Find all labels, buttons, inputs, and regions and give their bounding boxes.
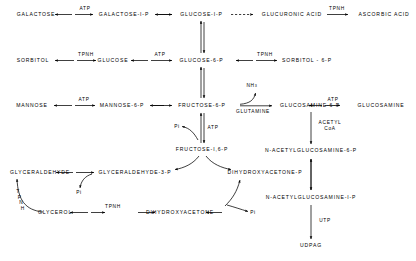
- arrow-fructose16p-to-glyceraldehyde3p: [175, 156, 199, 170]
- node-mannose-6-p: MANNOSE-6-P: [100, 103, 145, 108]
- node-glyceraldehyde: GLYCERALDEHYDE: [10, 170, 70, 175]
- arrow-nh3-cofactor: [240, 93, 256, 104]
- edge-label-atp-fructose: ATP: [207, 125, 218, 130]
- edge-label-pi-glyceraldehyde: Pi: [76, 190, 82, 195]
- arrow-dihydroxyacetone-to-dihydroxyacetonep: [225, 180, 240, 206]
- ammonia-cofactor-label: NH3: [246, 83, 257, 90]
- acetyl-label-line1: ACETYL: [319, 120, 342, 125]
- tpnh-vertical-text: TPNH: [14, 189, 22, 211]
- arrow-pi-release-glyceraldehyde: [80, 174, 92, 188]
- node-glucose: GLUCOSE: [98, 58, 129, 63]
- edge-label-pi-fructose: Pi: [174, 124, 180, 129]
- edge-label-pi-dihydroxyacetone: Pi: [250, 210, 256, 215]
- node-glucosamine-6-p: GLUCOSAMINE-6-P: [280, 103, 340, 108]
- node-n-acetylglucosamine-6-p: N-ACETYLGLUCOSAMINE-6-P: [265, 148, 357, 153]
- edge-label-atp-glucose: ATP: [154, 52, 165, 57]
- node-sorbitol: SORBITOL: [17, 58, 49, 63]
- edge-label-tpnh-ascorbic: TPNH: [329, 6, 345, 11]
- edge-label-atp-galactose: ATP: [79, 6, 90, 11]
- acetyl-label-line2: CoA: [324, 126, 335, 131]
- node-glucosamine: GLUCOSAMINE: [358, 103, 405, 108]
- node-sorbitol-6-p: SORBITOL - 6-P: [282, 58, 332, 63]
- ammonia-subscript: 3: [255, 84, 258, 88]
- node-n-acetylglucosamine-1-p: N-ACETYLGLUCOSAMINE-I-P: [266, 195, 357, 200]
- edge-label-tpnh-sorbitol: TPNH: [78, 52, 94, 57]
- edge-label-tpnh-sorbitol-6p: TPNH: [257, 52, 273, 57]
- node-glucose-1-p: GLUCOSE-I-P: [180, 12, 222, 17]
- arrow-fructose16p-to-dihydroxyacetonep: [206, 156, 231, 170]
- node-glucose-6-p: GLUCOSE-6-P: [180, 58, 224, 63]
- edge-label-tpnh-glycerol: TPNH: [105, 204, 121, 209]
- arrow-pi-release-fructose: [182, 127, 198, 141]
- node-ascorbic-acid: ASCORBIC ACID: [359, 12, 410, 17]
- edge-label-utp: UTP: [319, 218, 331, 223]
- node-mannose: MANNOSE: [16, 103, 48, 108]
- node-fructose-1-6-p: FRUCTOSE-I,6-P: [176, 147, 228, 152]
- node-glucuronic-acid: GLUCURONIC ACID: [262, 12, 322, 17]
- node-galactose-1-p: GALACTOSE-I-P: [99, 12, 149, 17]
- node-udpag: UDPAG: [300, 243, 322, 248]
- node-dihydroxyacetone-p: DIHYDROXYACETONE-P: [228, 170, 303, 175]
- edge-label-atp-mannose: ATP: [78, 97, 89, 102]
- edge-label-glutamine: GLUTAMINE: [236, 109, 270, 114]
- node-fructose-6-p: FRUCTOSE-6-P: [178, 103, 226, 108]
- node-galactose: GALACTOSE: [17, 12, 56, 17]
- arrow-pi-release-dihydroxyacetone: [227, 205, 248, 212]
- edge-label-atp-glucosamine: ATP: [327, 97, 338, 102]
- pathway-diagram: GALACTOSE GALACTOSE-I-P GLUCOSE-I-P GLUC…: [0, 0, 416, 261]
- edge-label-tpnh-vertical: TPNH: [14, 189, 22, 211]
- node-glycerol: GLYCEROL: [38, 210, 72, 215]
- node-dihydroxyacetone: DIHYDROXYACETONE: [146, 210, 214, 215]
- edge-label-acetyl-coa: ACETYLCoA: [319, 120, 342, 133]
- node-glyceraldehyde-3-p: GLYCERALDEHYDE-3-P: [99, 170, 172, 175]
